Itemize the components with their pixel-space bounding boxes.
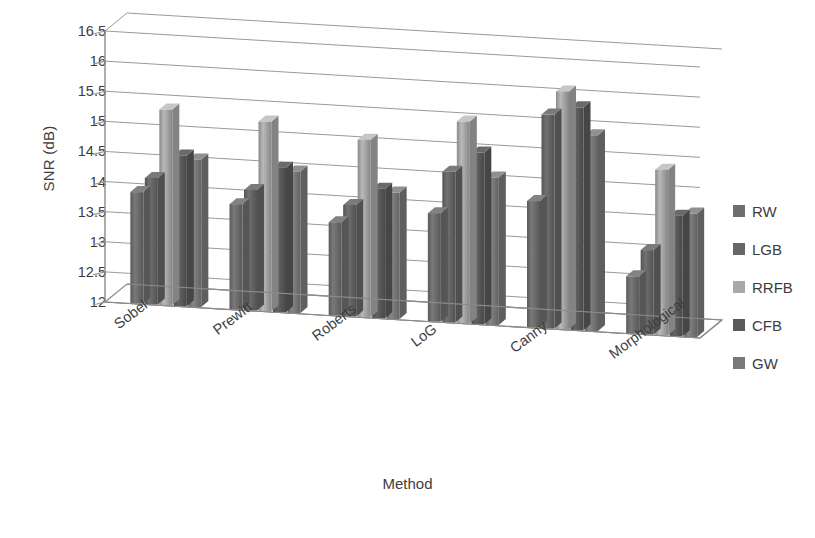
- legend-swatch-icon: [733, 205, 745, 217]
- legend-swatch-icon: [733, 319, 745, 331]
- x-axis-category-label: Sobel: [111, 296, 150, 331]
- legend-item[interactable]: RW: [733, 192, 813, 230]
- legend-item-label: RRFB: [752, 280, 793, 295]
- legend-swatch-icon: [733, 243, 745, 255]
- legend-swatch-icon: [733, 357, 745, 369]
- legend-item[interactable]: RRFB: [733, 268, 813, 306]
- x-axis-category-label: Prewitt: [210, 298, 255, 337]
- x-axis-category-label: LoG: [408, 320, 440, 349]
- x-axis-category-label: Morphological: [606, 294, 688, 361]
- legend-swatch-icon: [733, 281, 745, 293]
- x-axis-category-label: Canny: [507, 317, 550, 355]
- legend-item-label: GW: [752, 356, 778, 371]
- legend-item[interactable]: CFB: [733, 306, 813, 344]
- legend-item[interactable]: GW: [733, 344, 813, 382]
- legend: RWLGBRRFBCFBGW: [733, 192, 813, 382]
- legend-item-label: LGB: [752, 242, 782, 257]
- x-axis-category-label: Roberts: [309, 300, 359, 343]
- chart-root: SNR (dB) Method 1212.51313.51414.51515.5…: [0, 0, 815, 538]
- legend-item[interactable]: LGB: [733, 230, 813, 268]
- x-axis-category-labels: SobelPrewittRobertsLoGCannyMorphological: [0, 0, 815, 538]
- legend-item-label: RW: [752, 204, 777, 219]
- legend-item-label: CFB: [752, 318, 782, 333]
